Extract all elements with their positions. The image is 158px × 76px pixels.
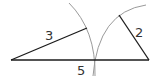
right-segment-length-label: 2 <box>135 25 143 40</box>
diagram-canvas: 3 2 5 <box>0 0 158 76</box>
triangle-diagram: 3 2 5 <box>0 0 158 76</box>
base-segment-length-label: 5 <box>77 63 85 76</box>
left-segment-length-label: 3 <box>45 28 53 43</box>
right-segment <box>119 15 149 60</box>
